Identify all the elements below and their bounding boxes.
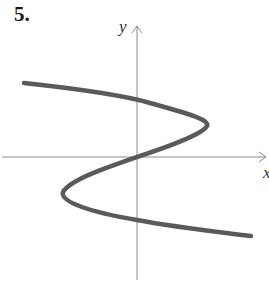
graph [0, 0, 269, 281]
